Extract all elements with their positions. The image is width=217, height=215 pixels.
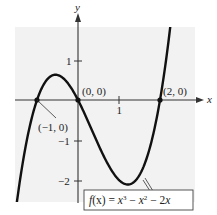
x-axis-arrow-icon: [196, 97, 204, 103]
y-axis-arrow-icon: [75, 13, 81, 22]
function-label: f(x) = x3 − x2 − 2x: [89, 194, 171, 207]
y-axis-label: y: [74, 1, 80, 13]
x-tick-label-1: 1: [117, 104, 123, 116]
label-point-origin: (0, 0): [82, 85, 106, 98]
point-origin: [75, 97, 80, 102]
label-point-2-0: (2, 0): [163, 85, 187, 98]
point-2-0: [157, 97, 162, 102]
function-graph: x y 1 1 −1 −2 (0, 0) (2, 0) (−1, 0) f(x)…: [0, 0, 217, 215]
y-tick-label-1: 1: [66, 55, 72, 67]
y-tick-label-minus1: −1: [58, 135, 70, 147]
y-tick-label-minus2: −2: [58, 175, 70, 187]
label-point-minus1-0: (−1, 0): [38, 121, 68, 134]
x-axis-label: x: [206, 93, 212, 105]
